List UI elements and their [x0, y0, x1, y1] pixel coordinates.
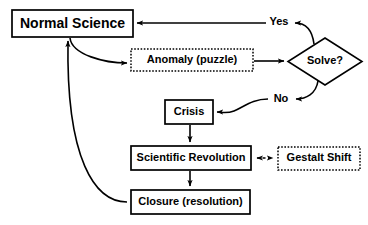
node-crisis[interactable]: Crisis	[165, 100, 213, 124]
edge-solve-no-to-crisis	[217, 81, 318, 113]
edge-normal-science-to-anomaly	[70, 38, 127, 63]
node-anomaly-label: Anomaly (puzzle)	[147, 53, 238, 65]
node-closure[interactable]: Closure (resolution)	[131, 190, 250, 214]
edge-label-no: No	[274, 92, 289, 104]
edge-label-yes: Yes	[270, 15, 289, 27]
node-solve-label: Solve?	[307, 54, 343, 66]
node-gestalt-shift-label: Gestalt Shift	[287, 151, 352, 163]
flowchart-canvas: Gestalt Shift (dashed, double headed) --…	[0, 0, 368, 225]
node-normal-science[interactable]: Normal Science	[12, 10, 133, 37]
node-closure-label: Closure (resolution)	[138, 195, 243, 207]
edge-label-no-text: No	[274, 92, 289, 104]
node-normal-science-label: Normal Science	[20, 15, 125, 31]
node-gestalt-shift[interactable]: Gestalt Shift	[278, 147, 360, 170]
node-crisis-label: Crisis	[174, 105, 205, 117]
node-scientific-revolution[interactable]: Scientific Revolution	[131, 146, 251, 170]
node-anomaly[interactable]: Anomaly (puzzle)	[131, 49, 253, 71]
node-scientific-revolution-label: Scientific Revolution	[137, 151, 246, 163]
edge-closure-to-normal-science	[68, 41, 127, 202]
node-solve-decision[interactable]: Solve?	[288, 38, 362, 85]
edge-label-yes-text: Yes	[270, 15, 289, 27]
